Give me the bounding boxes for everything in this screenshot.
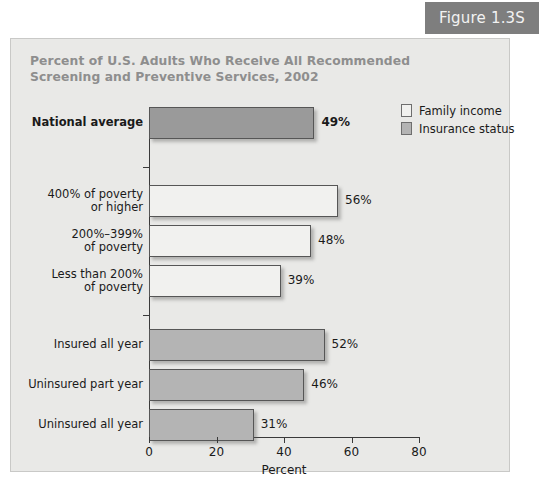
category-label-line: Uninsured part year bbox=[18, 378, 143, 392]
bar-value-label: 39% bbox=[288, 273, 315, 287]
category-label: Less than 200%of poverty bbox=[18, 268, 143, 295]
bar-value-label: 56% bbox=[345, 193, 372, 207]
bar-insurance-3 bbox=[149, 409, 254, 441]
chart-panel: Percent of U.S. Adults Who Receive All R… bbox=[10, 38, 510, 472]
category-label-line: National average bbox=[18, 116, 143, 130]
x-axis-tick-label-80: 80 bbox=[399, 445, 439, 459]
group-separator-tick-1 bbox=[143, 167, 150, 168]
category-label: 400% of povertyor higher bbox=[18, 188, 143, 215]
category-label-line: Uninsured all year bbox=[18, 418, 143, 432]
x-axis-tick-60 bbox=[352, 437, 353, 443]
group-separator-tick-2 bbox=[143, 315, 150, 316]
x-axis-tick-80 bbox=[419, 437, 420, 443]
x-axis-tick-40 bbox=[284, 437, 285, 443]
bar-value-label: 31% bbox=[261, 417, 288, 431]
bar-value-label: 52% bbox=[332, 337, 359, 351]
x-axis-tick-label-40: 40 bbox=[264, 445, 304, 459]
x-axis-title: Percent bbox=[224, 463, 344, 477]
category-label-line: Insured all year bbox=[18, 338, 143, 352]
bar-value-label: 49% bbox=[321, 115, 350, 129]
plot-area: Percent 49%National average56%400% of po… bbox=[11, 39, 511, 473]
category-label-line: 200%–399% bbox=[18, 228, 143, 242]
x-axis-tick-label-20: 20 bbox=[197, 445, 237, 459]
bar-insurance-1 bbox=[149, 329, 325, 361]
x-axis-tick-20 bbox=[217, 437, 218, 443]
bar-income-2 bbox=[149, 225, 311, 257]
category-label-line: 400% of poverty bbox=[18, 188, 143, 202]
category-label: Insured all year bbox=[18, 338, 143, 352]
bar-income-1 bbox=[149, 185, 338, 217]
x-axis-tick-0 bbox=[149, 437, 150, 443]
category-label: 200%–399%of poverty bbox=[18, 228, 143, 255]
category-label-line: Less than 200% bbox=[18, 268, 143, 282]
category-label: Uninsured part year bbox=[18, 378, 143, 392]
bar-national-1 bbox=[149, 107, 314, 139]
bar-income-3 bbox=[149, 265, 281, 297]
category-label-line: of poverty bbox=[18, 241, 143, 255]
x-axis-tick-label-60: 60 bbox=[332, 445, 372, 459]
category-label: National average bbox=[18, 116, 143, 130]
category-label: Uninsured all year bbox=[18, 418, 143, 432]
category-label-line: of poverty bbox=[18, 281, 143, 295]
bar-insurance-2 bbox=[149, 369, 304, 401]
x-axis-tick-label-0: 0 bbox=[129, 445, 169, 459]
bar-value-label: 48% bbox=[318, 233, 345, 247]
figure-badge: Figure 1.3S bbox=[425, 2, 539, 34]
category-label-line: or higher bbox=[18, 201, 143, 215]
figure-badge-label: Figure 1.3S bbox=[439, 9, 525, 27]
bar-value-label: 46% bbox=[311, 377, 338, 391]
